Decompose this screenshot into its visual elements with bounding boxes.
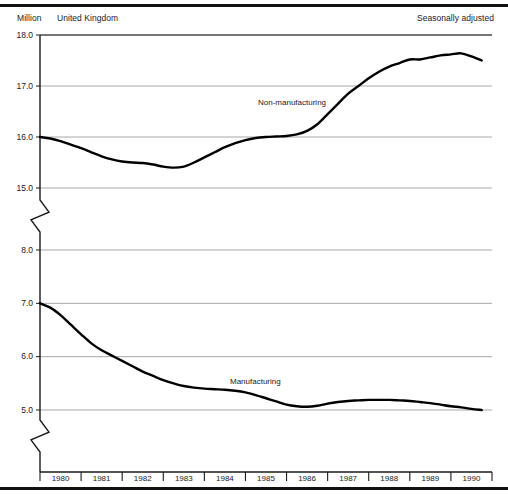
region-label: United Kingdom [57,13,118,23]
x-tick-label-1986: 1986 [285,474,329,483]
x-tick-label-1982: 1982 [121,474,165,483]
chart-plot-area [0,0,508,495]
y-tick-label-lower-6.0: 6.0 [7,352,33,361]
y-tick-label-lower-7.0: 7.0 [7,299,33,308]
y-axis-unit-label: Million [17,13,41,23]
gridlines-lower-panel [36,250,492,410]
x-tick-label-1988: 1988 [367,474,411,483]
y-tick-label-upper-15.0: 15.0 [7,184,33,193]
series-annotation-manufacturing: Manufacturing [230,377,281,386]
x-tick-label-1980: 1980 [39,474,83,483]
x-tick-label-1983: 1983 [162,474,206,483]
y-tick-label-upper-16.0: 16.0 [7,133,33,142]
x-tick-label-1989: 1989 [408,474,452,483]
y-axis-spine [31,35,49,472]
y-tick-label-lower-8.0: 8.0 [7,246,33,255]
seasonal-adjustment-label: Seasonally adjusted [417,13,494,23]
y-tick-label-lower-5.0: 5.0 [7,406,33,415]
y-tick-label-upper-17.0: 17.0 [7,82,33,91]
x-tick-label-1987: 1987 [326,474,370,483]
bottom-divider-rule [0,487,508,490]
x-tick-label-1985: 1985 [244,474,288,483]
series-annotation-non-manufacturing: Non-manufacturing [258,98,326,107]
x-tick-label-1981: 1981 [80,474,124,483]
x-tick-label-1984: 1984 [203,474,247,483]
series-line-non-manufacturing [40,53,482,167]
y-tick-label-upper-18.0: 18.0 [7,31,33,40]
top-divider-rule [0,4,508,7]
employment-chart-figure: Million United Kingdom Seasonally adjust… [0,0,508,495]
x-tick-label-1990: 1990 [449,474,493,483]
